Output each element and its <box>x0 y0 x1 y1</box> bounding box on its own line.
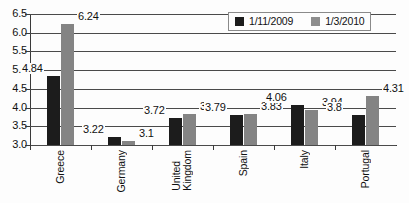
data-label-spain-series1: 3.79 <box>204 102 227 113</box>
x-axis-label-united-kingdom: UnitedKingdom <box>171 150 193 191</box>
y-axis-tick-mark <box>25 89 30 90</box>
bar-italy-series1 <box>291 105 304 145</box>
x-axis-tick-mark <box>30 145 31 150</box>
y-axis-tick-mark <box>25 108 30 109</box>
bar-portugal-series2 <box>366 96 379 145</box>
x-axis-tick-mark <box>91 145 92 150</box>
bar-chart: 6.56.05.55.04.54.03.53.0 GreeceGermanyUn… <box>0 0 409 203</box>
gridline <box>30 51 396 52</box>
y-axis-tick-mark <box>25 126 30 127</box>
x-axis-tick-mark <box>335 145 336 150</box>
x-axis-label-italy: Italy <box>299 150 310 169</box>
bar-spain-series2 <box>244 114 257 145</box>
x-axis-label-spain: Spain <box>238 150 249 176</box>
data-label-greece-series2: 6.24 <box>77 11 100 22</box>
data-label-germany-series2: 3.1 <box>138 128 155 139</box>
legend-item-1: 1/11/2009 <box>235 16 293 27</box>
legend-swatch-gray-icon <box>311 17 320 26</box>
x-axis-label-greece: Greece <box>55 150 66 184</box>
bar-spain-series1 <box>230 115 243 145</box>
bar-united-kingdom-series2 <box>183 114 196 145</box>
gridline <box>30 89 396 90</box>
x-axis-tick-mark <box>213 145 214 150</box>
data-label-portugal-series1: 3.8 <box>326 102 343 113</box>
x-axis-tick-mark <box>152 145 153 150</box>
gridline <box>30 70 396 71</box>
data-label-portugal-series2: 4.31 <box>382 83 405 94</box>
gridline <box>30 33 396 34</box>
x-axis-label-portugal: Portugal <box>360 150 371 188</box>
bar-germany-series2 <box>122 141 135 145</box>
y-axis-tick-mark <box>25 14 30 15</box>
legend-item-2: 1/3/2010 <box>311 16 364 27</box>
legend-label-1: 1/11/2009 <box>249 16 293 27</box>
bar-italy-series2 <box>305 110 318 145</box>
x-axis-tick-mark <box>274 145 275 150</box>
y-axis: 6.56.05.55.04.54.03.53.0 <box>0 0 27 203</box>
data-label-italy-series1: 4.06 <box>265 92 288 103</box>
data-label-germany-series1: 3.22 <box>82 124 105 135</box>
data-label-united-kingdom-series1: 3.72 <box>143 105 166 116</box>
legend-swatch-black-icon <box>235 17 244 26</box>
legend-label-2: 1/3/2010 <box>325 16 364 27</box>
y-axis-tick-mark <box>25 33 30 34</box>
bar-portugal-series1 <box>352 115 365 145</box>
bar-greece-series1 <box>47 76 60 145</box>
bar-greece-series2 <box>61 24 74 145</box>
bar-united-kingdom-series1 <box>169 118 182 145</box>
y-axis-tick-mark <box>25 51 30 52</box>
data-label-greece-series1: 4.84 <box>21 63 44 74</box>
chart-legend: 1/11/20091/3/2010 <box>228 12 371 31</box>
bar-germany-series1 <box>108 137 121 145</box>
x-axis-label-germany: Germany <box>116 150 127 192</box>
